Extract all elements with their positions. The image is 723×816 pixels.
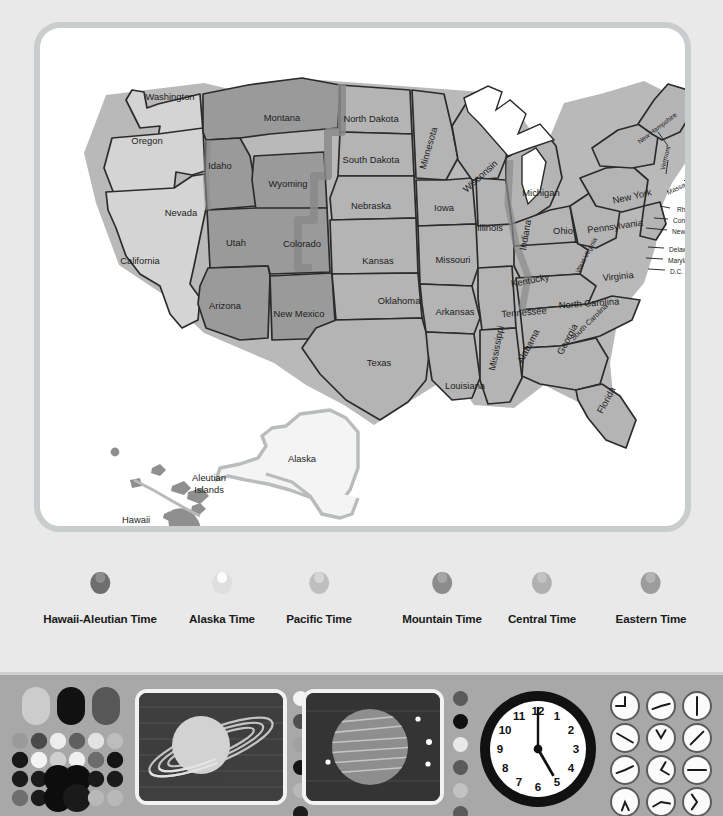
indicator-dot (453, 714, 468, 729)
clock-hour-number: 9 (497, 743, 503, 755)
color-swatch-grid[interactable] (8, 675, 128, 816)
clock-icon-11[interactable] (646, 787, 676, 816)
indicator-dot (293, 806, 308, 816)
legend-label: Eastern Time (616, 612, 687, 625)
state-label-montana: Montana (264, 112, 301, 123)
state-label-wyoming: Wyoming (269, 178, 308, 189)
state-label-south-dakota: South Dakota (343, 154, 401, 165)
state-label-louisiana: Louisiana (445, 380, 486, 391)
clock-icon-grid[interactable] (610, 691, 716, 816)
pacific-mountain-boundary (206, 140, 208, 210)
legend-item-hawaii-aleutian-time[interactable]: Hawaii-Aleutian Time (43, 566, 156, 625)
legend-label: Alaska Time (189, 612, 255, 625)
state-label-arkansas: Arkansas (435, 306, 474, 317)
inset-label-hawaii: Hawaii (122, 514, 150, 525)
state-label-oregon: Oregon (131, 135, 162, 146)
state-label-nebraska: Nebraska (351, 200, 392, 211)
state-label-california: California (120, 255, 160, 266)
indicator-dot (453, 691, 468, 706)
state-label-new-mexico: New Mexico (273, 308, 324, 319)
clock-icon-12[interactable] (682, 787, 712, 816)
callout-label-maryland: Maryland (668, 257, 685, 265)
inset-label-aleutian-islands: Islands (194, 484, 224, 495)
time-zone-legend: Hawaii-Aleutian TimeAlaska TimePacific T… (0, 552, 723, 664)
legend-label: Central Time (508, 612, 576, 625)
time-zone-map-page: WashingtonOregonCaliforniaNevadaIdahoMon… (0, 0, 723, 816)
legend-item-alaska-time[interactable]: Alaska Time (189, 566, 255, 625)
indicator-dot (453, 760, 468, 775)
clock-icon-8[interactable] (646, 755, 676, 785)
legend-label: Mountain Time (402, 612, 482, 625)
clock-icon-3[interactable] (682, 691, 712, 721)
clock-hour-number: 10 (499, 724, 512, 736)
saturn-thumbnail[interactable] (135, 689, 287, 805)
legend-dot-icon (432, 572, 452, 594)
clock-hour-number: 3 (573, 743, 579, 755)
clock-hour-number: 1 (554, 710, 561, 722)
state-label-colorado: Colorado (283, 238, 321, 249)
map-card: WashingtonOregonCaliforniaNevadaIdahoMon… (34, 22, 691, 532)
legend-dot-icon (90, 572, 110, 594)
state-label-idaho: Idaho (208, 160, 231, 171)
state-label-washington: Washington (145, 91, 194, 102)
state-label-iowa: Iowa (434, 202, 455, 213)
bottom-toolbar: 121234567891011 (0, 672, 723, 816)
legend-item-mountain-time[interactable]: Mountain Time (402, 566, 482, 625)
clock-hour-number: 5 (554, 776, 561, 788)
legend-dot-icon (309, 572, 329, 594)
legend-label: Pacific Time (286, 612, 352, 625)
state-label-arizona: Arizona (209, 300, 242, 311)
state-label-kansas: Kansas (362, 255, 394, 266)
state-label-missouri: Missouri (436, 254, 471, 265)
clock-icon-5[interactable] (646, 723, 676, 753)
clock-icon-1[interactable] (610, 691, 640, 721)
us-time-zone-map[interactable]: WashingtonOregonCaliforniaNevadaIdahoMon… (40, 28, 685, 526)
legend-dot-icon (641, 572, 661, 594)
jupiter-thumbnail[interactable] (302, 689, 444, 805)
state-label-michigan: Michigan (522, 187, 560, 198)
callout-label-delaware: Delaware (669, 246, 685, 253)
state-label-oklahoma: Oklahoma (378, 295, 422, 306)
legend-label: Hawaii-Aleutian Time (43, 612, 156, 625)
legend-item-pacific-time[interactable]: Pacific Time (286, 566, 352, 625)
clock-icon-4[interactable] (610, 723, 640, 753)
dot-strip-right (453, 691, 468, 816)
clock-icon-7[interactable] (610, 755, 640, 785)
clock-hour-number: 7 (516, 776, 522, 788)
callout-label-new-jersey: New Jersey (672, 228, 685, 236)
state-label-nevada: Nevada (165, 207, 198, 218)
clock-hour-number: 11 (513, 710, 526, 722)
callout-label-rhode-island: Rhode Island (677, 206, 685, 213)
state-label-utah: Utah (226, 237, 246, 248)
clock-hour-number: 6 (535, 781, 541, 793)
clock-icon-6[interactable] (682, 723, 712, 753)
callout-label-connecticut: Connecticut (673, 217, 685, 224)
clock-hour-number: 4 (568, 762, 575, 774)
indicator-dot (453, 737, 468, 752)
clock-hour-number: 2 (568, 724, 574, 736)
state-label-north-dakota: North Dakota (343, 113, 399, 124)
legend-dot-icon (532, 572, 552, 594)
inset-label-aleutian-islands: Aleutian (192, 472, 226, 483)
state-label-texas: Texas (367, 357, 392, 368)
callout-label-d-c-: D.C. (670, 268, 683, 275)
legend-dot-icon (212, 572, 232, 594)
analog-clock[interactable]: 121234567891011 (476, 683, 600, 813)
clock-hour-number: 8 (502, 762, 509, 774)
indicator-dot (453, 806, 468, 816)
state-label-ohio: Ohio (553, 225, 573, 236)
inset-label-alaska: Alaska (288, 453, 317, 464)
state-label-illinois: Illinois (477, 222, 503, 233)
indicator-dot (453, 783, 468, 798)
legend-item-eastern-time[interactable]: Eastern Time (616, 566, 687, 625)
clock-icon-2[interactable] (646, 691, 676, 721)
legend-item-central-time[interactable]: Central Time (508, 566, 576, 625)
clock-icon-10[interactable] (610, 787, 640, 816)
clock-icon-9[interactable] (682, 755, 712, 785)
